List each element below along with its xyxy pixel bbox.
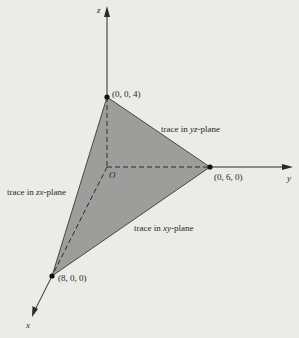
point-label-z-intercept: (0, 0, 4) [112, 89, 141, 99]
point-x-intercept [49, 273, 54, 278]
point-y-intercept [207, 164, 212, 169]
trace-label-xy: trace in xy-plane [134, 223, 193, 233]
x-axis-label: x [25, 320, 30, 330]
y-axis-arrow-icon [282, 164, 293, 170]
y-axis-label: y [286, 173, 291, 183]
plane-diagram: z y x O (0, 0, 4) (0, 6, 0) (8, 0, 0) tr… [0, 0, 299, 338]
origin-label: O [109, 170, 116, 180]
trace-label-zx: trace in zx-plane [7, 187, 66, 197]
x-axis [35, 276, 52, 310]
trace-label-yz: trace in yz-plane [161, 124, 220, 134]
point-label-y-intercept: (0, 6, 0) [214, 172, 243, 182]
point-label-x-intercept: (8, 0, 0) [58, 273, 87, 283]
z-axis-arrow-icon [104, 6, 110, 17]
x-axis-arrow-icon [32, 306, 38, 317]
z-axis-label: z [96, 5, 101, 15]
point-z-intercept [104, 94, 109, 99]
